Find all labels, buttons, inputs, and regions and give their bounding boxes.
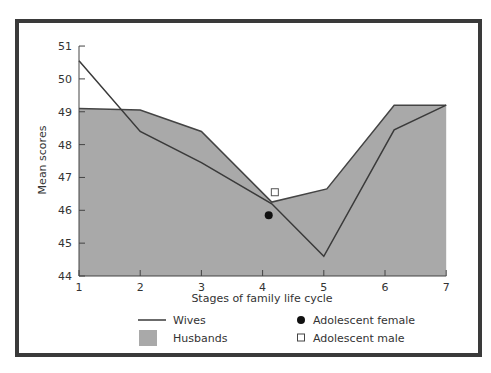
x-tick-label: 6 [382, 281, 389, 294]
x-tick-label: 7 [443, 281, 450, 294]
legend-husbands-swatch-icon [139, 330, 157, 346]
y-tick-label: 44 [58, 270, 72, 283]
legend-wives-label: Wives [173, 314, 206, 327]
x-axis-title: Stages of family life cycle [191, 292, 332, 305]
y-tick-label: 51 [58, 40, 72, 53]
legend-female-circle-icon [297, 316, 305, 324]
line-area-chart: 44454647484950511234567 Stages of family… [0, 0, 491, 373]
legend: Wives Husbands Adolescent female Adolesc… [138, 314, 415, 346]
x-tick-label: 2 [137, 281, 144, 294]
adolescent-male-marker [271, 189, 278, 196]
y-axis-title: Mean scores [36, 125, 49, 194]
adolescent-female-marker [265, 211, 273, 219]
husbands-area [79, 105, 446, 276]
legend-husbands-label: Husbands [173, 332, 228, 345]
legend-female-label: Adolescent female [313, 314, 415, 327]
y-tick-label: 49 [58, 106, 72, 119]
y-tick-label: 45 [58, 237, 72, 250]
y-tick-label: 50 [58, 73, 72, 86]
y-tick-label: 48 [58, 139, 72, 152]
plot-area [79, 61, 446, 276]
legend-male-label: Adolescent male [313, 332, 405, 345]
y-tick-label: 47 [58, 171, 72, 184]
legend-male-square-icon [298, 334, 305, 341]
y-tick-label: 46 [58, 204, 72, 217]
x-tick-label: 1 [76, 281, 83, 294]
